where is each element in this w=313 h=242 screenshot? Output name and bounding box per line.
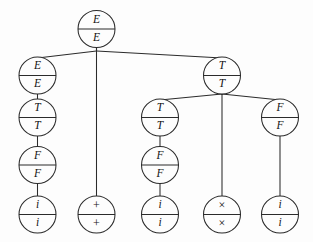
tree-node[interactable]: TT xyxy=(204,57,241,94)
node-label-top: + xyxy=(93,198,100,212)
node-label-bottom: i xyxy=(158,216,161,228)
parse-tree-canvas: EEEE++TTTTFFiiTTFFii××FFii xyxy=(0,0,313,242)
node-label-bottom: E xyxy=(92,31,100,43)
tree-edge xyxy=(222,94,280,100)
node-label-bottom: i xyxy=(36,216,39,228)
tree-node[interactable]: ii xyxy=(262,196,299,233)
node-label-bottom: F xyxy=(33,167,42,179)
node-layer: EEEE++TTTTFFiiTTFFii××FFii xyxy=(19,11,299,234)
node-label-top: F xyxy=(155,149,164,161)
tree-node[interactable]: FF xyxy=(262,99,299,136)
parse-tree-diagram: EEEE++TTTTFFiiTTFFii××FFii xyxy=(0,0,313,242)
tree-node[interactable]: TT xyxy=(142,99,179,136)
node-label-bottom: × xyxy=(219,216,226,230)
node-label-bottom: i xyxy=(278,216,281,228)
node-label-bottom: F xyxy=(275,119,284,131)
node-label-top: F xyxy=(33,149,42,161)
node-label-top: i xyxy=(36,198,39,210)
node-label-bottom: + xyxy=(93,216,100,230)
tree-edge xyxy=(160,94,222,100)
tree-node[interactable]: FF xyxy=(19,147,56,184)
tree-node[interactable]: TT xyxy=(19,99,56,136)
node-label-top: E xyxy=(92,13,100,25)
node-label-top: i xyxy=(158,198,161,210)
tree-node[interactable]: EE xyxy=(78,11,115,48)
node-label-bottom: E xyxy=(33,77,41,89)
node-label-top: E xyxy=(33,59,41,71)
node-label-top: i xyxy=(278,198,281,210)
tree-node[interactable]: ×× xyxy=(204,196,241,233)
tree-node[interactable]: EE xyxy=(19,57,56,94)
tree-node[interactable]: ii xyxy=(142,196,179,233)
node-label-bottom: F xyxy=(155,167,164,179)
tree-node[interactable]: ++ xyxy=(78,196,115,233)
tree-node[interactable]: FF xyxy=(142,147,179,184)
node-label-top: F xyxy=(275,101,284,113)
tree-edge xyxy=(97,48,223,59)
node-label-top: × xyxy=(219,198,226,212)
tree-edge xyxy=(38,48,97,59)
tree-node[interactable]: ii xyxy=(19,196,56,233)
